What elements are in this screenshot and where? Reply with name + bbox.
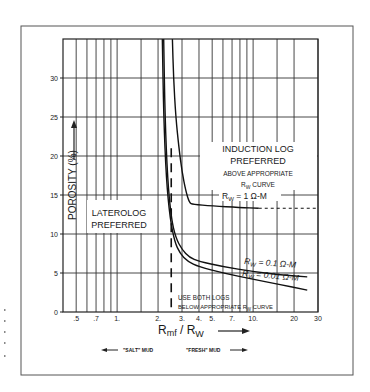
both-logs-annotation: USE BOTH LOGS BELOW APPROPRIATE RW CURVE bbox=[178, 294, 273, 312]
induction-line2: PREFERRED bbox=[230, 156, 286, 166]
induction-line3: ABOVE APPROPRIATE bbox=[223, 170, 293, 177]
x-tick-label: .5 bbox=[73, 315, 79, 322]
x-label-r: R bbox=[158, 323, 167, 337]
x-tick-label: 7. bbox=[229, 315, 235, 322]
chart-figure: 051015202530 .5.71.2.3.4.5.7.10.2030 POR… bbox=[0, 0, 370, 392]
both-line1: USE BOTH LOGS bbox=[178, 294, 229, 301]
laterolog-line2: PREFERRED bbox=[91, 220, 147, 230]
x-axis-label: Rmf / RW bbox=[158, 323, 250, 339]
x-label-w: W bbox=[195, 329, 204, 339]
x-axis-arrow-head bbox=[242, 328, 250, 334]
salt-mud-label: "SALT" MUD bbox=[101, 347, 154, 353]
svg-text:Rmf / RW: Rmf / RW bbox=[158, 323, 204, 339]
x-axis-ticks: .5.71.2.3.4.5.7.10.2030 bbox=[73, 315, 322, 322]
y-tick-label: 15 bbox=[50, 192, 58, 199]
x-tick-label: 3. bbox=[179, 315, 185, 322]
x-tick-label: 10. bbox=[248, 315, 258, 322]
x-tick-label: .7 bbox=[93, 315, 99, 322]
x-tick-label: 2. bbox=[155, 315, 161, 322]
x-tick-label: 30 bbox=[314, 315, 322, 322]
rw1-rest: = 1 Ω-M bbox=[234, 191, 267, 201]
y-tick-label: 10 bbox=[50, 231, 58, 238]
x-label-mf: mf bbox=[167, 328, 177, 338]
both-line2-rest: CURVE bbox=[251, 304, 273, 310]
y-axis-ticks: 051015202530 bbox=[50, 75, 63, 316]
both-line2-pre: BELOW APPROPRIATE bbox=[178, 304, 243, 310]
fresh-mud-label: "FRESH" MUD bbox=[186, 347, 248, 353]
x-label-sep: / R bbox=[177, 323, 196, 337]
y-tick-label: 30 bbox=[50, 75, 58, 82]
x-tick-label: 1. bbox=[114, 315, 120, 322]
y-tick-label: 20 bbox=[50, 153, 58, 160]
rw01-rest: = 0.1 Ω-M bbox=[256, 257, 298, 270]
x-tick-label: 4. bbox=[196, 315, 202, 322]
x-tick-label: 5. bbox=[209, 315, 215, 322]
induction-line1: INDUCTION LOG bbox=[222, 144, 294, 154]
curve-labels: RW = 1 Ω-M RW = 0.1 Ω-M RW = 0.01 Ω-M bbox=[219, 190, 300, 284]
salt-mud-text: "SALT" MUD bbox=[123, 347, 154, 353]
y-tick-label: 5 bbox=[54, 270, 58, 277]
x-tick-label: 20 bbox=[290, 315, 298, 322]
fresh-mud-text: "FRESH" MUD bbox=[186, 347, 221, 353]
y-tick-label: 0 bbox=[54, 309, 58, 316]
svg-text:BELOW APPROPRIATE RW CURVE: BELOW APPROPRIATE RW CURVE bbox=[178, 304, 273, 312]
induction-line4-rest: CURVE bbox=[250, 181, 275, 188]
y-tick-label: 25 bbox=[50, 114, 58, 121]
curve-label-rw-0-1: RW = 0.1 Ω-M bbox=[244, 256, 298, 271]
laterolog-line1: LATEROLOG bbox=[92, 208, 146, 218]
scan-marks bbox=[4, 309, 6, 357]
